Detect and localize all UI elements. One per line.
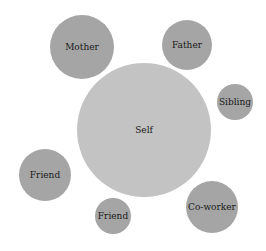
node-self: Self — [77, 63, 211, 197]
node-father: Father — [162, 20, 212, 70]
node-mother: Mother — [50, 15, 114, 79]
node-label: Self — [135, 125, 153, 135]
node-label: Co-worker — [188, 202, 236, 212]
node-label: Friend — [98, 211, 128, 221]
network-diagram: Mother Father Sibling Self Friend Friend… — [0, 0, 266, 251]
node-label: Friend — [30, 170, 60, 180]
node-friend-1: Friend — [19, 149, 71, 201]
node-label: Sibling — [219, 97, 251, 107]
node-label: Mother — [65, 42, 99, 52]
node-coworker: Co-worker — [186, 181, 238, 233]
node-label: Father — [172, 40, 202, 50]
node-friend-2: Friend — [95, 198, 131, 234]
node-sibling: Sibling — [217, 84, 253, 120]
